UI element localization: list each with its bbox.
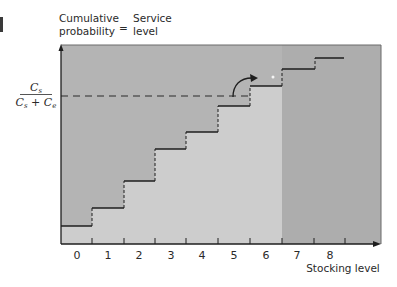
- equals-sign: =: [119, 22, 128, 34]
- x-tick-labels: 0 1 2 3 4 5 6 7 8: [74, 249, 334, 262]
- x-tick-1: 1: [105, 249, 112, 262]
- corner-mark: [0, 17, 3, 32]
- fraction-denominator: Cs + Ce: [16, 96, 57, 110]
- highlight-dot: [272, 76, 275, 79]
- y-label-line1: Cumulative: [59, 12, 119, 24]
- x-tick-3: 3: [168, 249, 175, 262]
- x-axis-label: Stocking level: [306, 262, 380, 274]
- stocking-level-diagram: 0 1 2 3 4 5 6 7 8 Stocking level Cumulat…: [0, 0, 397, 287]
- x-tick-0: 0: [74, 249, 81, 262]
- x-tick-6: 6: [263, 249, 270, 262]
- fraction-numerator: Cs: [30, 81, 42, 95]
- x-tick-4: 4: [199, 249, 206, 262]
- critical-ratio-fraction: Cs Cs + Ce: [16, 81, 57, 110]
- x-tick-7: 7: [294, 249, 301, 262]
- x-tick-2: 2: [136, 249, 143, 262]
- service-level-line2: level: [133, 25, 158, 37]
- service-level-line1: Service: [133, 12, 172, 24]
- x-tick-8: 8: [327, 249, 334, 262]
- x-tick-5: 5: [231, 249, 238, 262]
- y-label-line2: probability: [59, 25, 115, 37]
- right-region: [282, 45, 381, 244]
